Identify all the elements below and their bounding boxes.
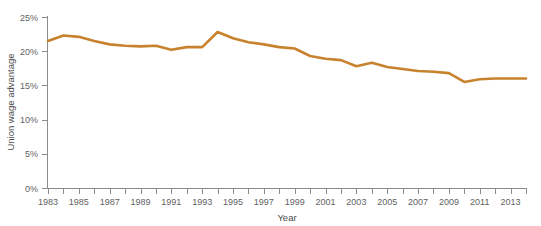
y-tick-label: 15% [20,81,38,91]
line-chart: 0%5%10%15%20%25% 19831985198719891991199… [0,0,541,226]
y-tick-label: 5% [25,149,38,159]
x-tick-label: 2011 [470,197,489,207]
x-tick-label: 1997 [254,197,274,207]
x-tick-label: 1993 [192,197,212,207]
chart-figure: 0%5%10%15%20%25% 19831985198719891991199… [0,0,541,226]
x-tick-label: 1985 [69,197,89,207]
y-axis-title: Union wage advantage [5,53,16,150]
x-tick-label: 2009 [439,197,459,207]
x-tick-label: 2001 [316,197,336,207]
x-tick-label: 1995 [223,197,243,207]
chart-background [0,0,541,226]
x-tick-label: 1987 [100,197,120,207]
x-tick-label: 2003 [346,197,366,207]
x-tick-label: 1989 [131,197,151,207]
x-axis-title: Year [277,212,296,223]
x-tick-label: 1999 [285,197,305,207]
x-tick-label: 1983 [38,197,58,207]
x-tick-label: 2013 [501,197,521,207]
y-tick-label: 0% [25,184,38,194]
x-tick-label: 1991 [161,197,181,207]
y-tick-label: 25% [20,13,38,23]
y-tick-label: 10% [20,115,38,125]
x-tick-label: 2007 [408,197,428,207]
y-tick-label: 20% [20,47,38,57]
x-tick-label: 2005 [377,197,397,207]
